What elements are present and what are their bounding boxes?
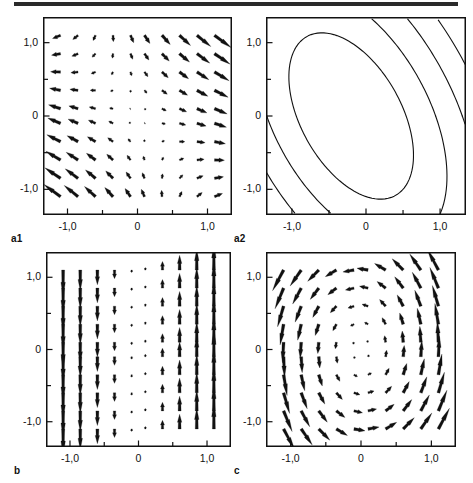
panel-b-y-tick-label: 1,0	[6, 270, 41, 282]
panel-a1-y-tick-label: 0	[3, 109, 38, 121]
panel-c-x-tick-label: 0	[336, 452, 386, 464]
panel-a1-x-tick-label: -1,0	[43, 220, 93, 232]
panel-b-x-tick-label: 0	[114, 452, 164, 464]
panel-b	[46, 252, 231, 447]
panel-label-c: c	[234, 465, 240, 476]
panel-a1-x-tick-label: 0	[113, 220, 163, 232]
panel-b-y-tick-label: -1,0	[6, 415, 41, 427]
panel-a2-x-tick-label: 1,0	[415, 220, 465, 232]
panel-c	[266, 252, 456, 447]
panel-a2-x-tick-label: 0	[341, 220, 391, 232]
panel-c-x-tick-label: 1,0	[406, 452, 456, 464]
panel-b-y-tick-label: 0	[6, 343, 41, 355]
panel-label-a2: a2	[234, 233, 246, 244]
panel-a2-plot	[266, 17, 466, 215]
panel-a2-y-tick-label: 1,0	[226, 36, 261, 48]
panel-c-y-tick-label: 1,0	[226, 270, 261, 282]
plot-frame	[44, 18, 232, 215]
panel-c-x-tick-label: -1,0	[266, 452, 316, 464]
panel-a1-x-tick-label: 1,0	[183, 220, 233, 232]
panel-a1-y-tick-label: -1,0	[3, 182, 38, 194]
panel-c-y-tick-label: -1,0	[226, 415, 261, 427]
panel-a1	[43, 17, 232, 215]
panel-a1-y-tick-label: 1,0	[3, 36, 38, 48]
panel-a2-x-tick-label: -1,0	[267, 220, 317, 232]
panel-b-x-tick-label: -1,0	[45, 452, 95, 464]
panel-a2	[266, 17, 466, 215]
top-rule-divider	[14, 2, 458, 6]
panel-c-y-tick-label: 0	[226, 343, 261, 355]
figure-canvas: -1,001,0-1,001,0a1-1,001,0-1,001,0a2-1,0…	[0, 0, 473, 483]
panel-b-plot	[46, 252, 231, 447]
panel-label-b: b	[14, 465, 20, 476]
plot-frame	[267, 253, 456, 447]
panel-a2-y-tick-label: 0	[226, 109, 261, 121]
panel-a2-y-tick-label: -1,0	[226, 182, 261, 194]
panel-label-a1: a1	[11, 233, 23, 244]
panel-b-x-tick-label: 1,0	[182, 452, 232, 464]
panel-a1-plot	[43, 17, 232, 215]
panel-c-plot	[266, 252, 456, 447]
plot-frame	[47, 253, 231, 447]
